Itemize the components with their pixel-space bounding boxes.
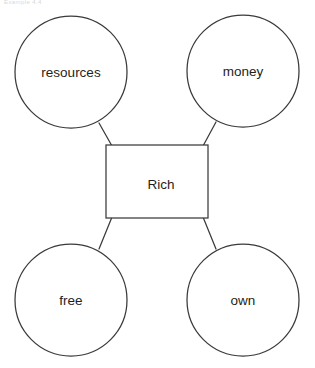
- node-resources-label: resources: [41, 65, 101, 80]
- node-rich-label: Rich: [147, 177, 174, 192]
- connector-free-to-rich: [99, 217, 112, 249]
- connector-money-to-rich: [203, 122, 216, 146]
- connector-resources-to-rich: [99, 123, 112, 146]
- word-web-diagram: resources money free own Rich: [0, 0, 315, 368]
- node-money[interactable]: money: [187, 15, 299, 127]
- node-free[interactable]: free: [15, 244, 127, 356]
- node-money-label: money: [223, 64, 264, 79]
- node-own-label: own: [231, 293, 256, 308]
- node-resources[interactable]: resources: [15, 16, 127, 128]
- node-center-rich[interactable]: Rich: [106, 145, 208, 218]
- connector-own-to-rich: [203, 217, 216, 249]
- diagram-canvas: Example 4.4 resources money free own Ric…: [0, 0, 315, 368]
- node-own[interactable]: own: [187, 244, 299, 356]
- node-free-label: free: [59, 293, 82, 308]
